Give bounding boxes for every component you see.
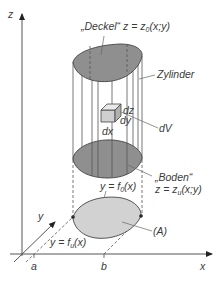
- y-axis-label: y: [37, 210, 44, 222]
- deckel-label: „Deckel“z = z0(x;y): [80, 20, 170, 33]
- upper-curve-label-group: y = f0(x): [99, 180, 136, 198]
- upper-curve-label: y = f0(x): [99, 180, 136, 193]
- a-label: a: [31, 260, 37, 272]
- region-A: (A): [71, 197, 167, 238]
- zylinder-label: Zylinder: [156, 68, 195, 80]
- region-label: (A): [153, 225, 167, 237]
- boden-equation: z = zu(x;y): [154, 183, 202, 196]
- b-label: b: [101, 260, 107, 272]
- boden-label: „Boden“: [154, 171, 193, 183]
- volume-integral-diagram: z x y a b (A): [0, 0, 224, 289]
- dV-label: dV: [159, 122, 173, 134]
- boden-surface: „Boden“ z = zu(x;y): [73, 140, 202, 196]
- z-axis: z: [7, 8, 22, 256]
- x-axis: x: [10, 254, 212, 272]
- zylinder-label-group: Zylinder: [139, 68, 195, 80]
- volume-element-cube: dz dy dx dV: [101, 104, 173, 137]
- dx-label: dx: [102, 125, 114, 137]
- z-axis-label: z: [7, 8, 14, 20]
- deckel-surface: „Deckel“z = z0(x;y): [73, 20, 170, 82]
- lower-curve-label: y = fu(x): [49, 236, 86, 249]
- x-axis-label: x: [199, 260, 206, 272]
